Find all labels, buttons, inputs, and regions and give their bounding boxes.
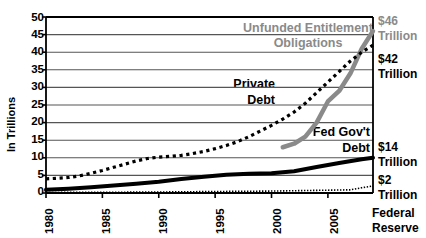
chart-container: In Trillions 50 45 40 35 30 25 20 15 10 … xyxy=(0,0,426,238)
series-line-unfunded-entitlement-obligations xyxy=(283,31,373,147)
data-series xyxy=(46,31,373,192)
chart-plot-area xyxy=(0,0,426,238)
